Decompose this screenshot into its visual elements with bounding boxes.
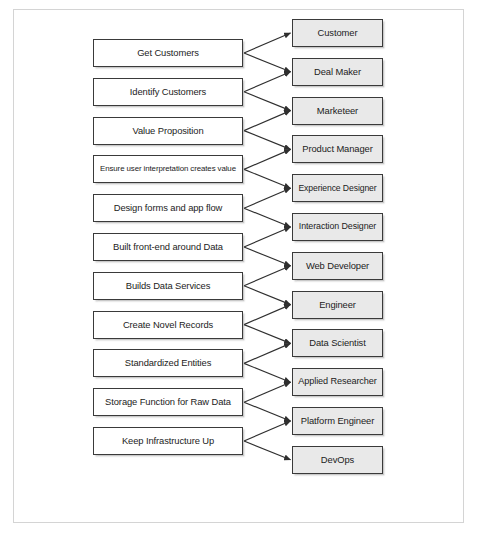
node-label: Engineer xyxy=(316,300,359,310)
function-node[interactable]: Design forms and app flow xyxy=(93,194,243,222)
node-label: Keep Infrastructure Up xyxy=(119,436,217,446)
node-label: Ensure user interpretation creates value xyxy=(97,165,239,173)
role-node[interactable]: Product Manager xyxy=(292,135,383,163)
diagram-canvas: Get CustomersIdentify CustomersValue Pro… xyxy=(0,0,481,534)
node-label: Marketeer xyxy=(314,106,361,116)
role-node[interactable]: Interaction Designer xyxy=(292,213,383,241)
node-label: Platform Engineer xyxy=(298,416,377,426)
node-label: DevOps xyxy=(318,455,357,465)
role-node[interactable]: Experience Designer xyxy=(292,174,383,202)
function-node[interactable]: Ensure user interpretation creates value xyxy=(93,155,243,183)
node-label: Built front-end around Data xyxy=(110,242,226,252)
role-node[interactable]: Web Developer xyxy=(292,252,383,280)
node-label: Experience Designer xyxy=(295,184,379,193)
node-label: Customer xyxy=(315,28,361,38)
node-label: Web Developer xyxy=(303,261,372,271)
node-label: Identify Customers xyxy=(127,87,209,97)
node-label: Create Novel Records xyxy=(120,320,216,330)
function-node[interactable]: Create Novel Records xyxy=(93,311,243,339)
node-label: Interaction Designer xyxy=(296,222,379,231)
role-node[interactable]: DevOps xyxy=(292,446,383,474)
function-node[interactable]: Standardized Entities xyxy=(93,349,243,377)
node-label: Design forms and app flow xyxy=(111,203,226,213)
node-label: Standardized Entities xyxy=(122,358,215,368)
function-node[interactable]: Value Proposition xyxy=(93,117,243,145)
role-node[interactable]: Applied Researcher xyxy=(292,368,383,396)
role-node[interactable]: Platform Engineer xyxy=(292,407,383,435)
function-node[interactable]: Storage Function for Raw Data xyxy=(93,388,243,416)
function-node[interactable]: Identify Customers xyxy=(93,78,243,106)
node-label: Storage Function for Raw Data xyxy=(102,397,234,407)
function-node[interactable]: Get Customers xyxy=(93,39,243,67)
role-node[interactable]: Data Scientist xyxy=(292,329,383,357)
node-label: Get Customers xyxy=(134,48,202,58)
role-node[interactable]: Engineer xyxy=(292,291,383,319)
node-label: Value Proposition xyxy=(129,126,206,136)
role-node[interactable]: Customer xyxy=(292,19,383,47)
role-node[interactable]: Deal Maker xyxy=(292,58,383,86)
function-node[interactable]: Built front-end around Data xyxy=(93,233,243,261)
function-node[interactable]: Builds Data Services xyxy=(93,272,243,300)
node-label: Builds Data Services xyxy=(123,281,214,291)
node-label: Product Manager xyxy=(299,144,375,154)
function-node[interactable]: Keep Infrastructure Up xyxy=(93,427,243,455)
role-node[interactable]: Marketeer xyxy=(292,97,383,125)
node-label: Data Scientist xyxy=(306,338,368,348)
node-label: Deal Maker xyxy=(311,67,364,77)
node-label: Applied Researcher xyxy=(295,377,379,387)
